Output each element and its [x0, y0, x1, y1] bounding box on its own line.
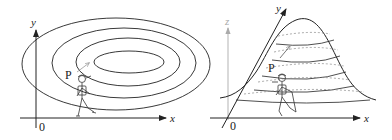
level-curve-5-front	[236, 100, 370, 103]
left-contour-panel: x y 0 P	[20, 16, 210, 134]
x-axis-label-left: x	[169, 112, 175, 124]
level-curve-3-back	[266, 63, 344, 68]
diagram-canvas: x y 0 P z x	[0, 0, 392, 140]
level-curve-2-front	[272, 56, 340, 62]
origin-label-right: 0	[230, 119, 236, 133]
y-axis-right	[222, 9, 286, 128]
gradient-arrow-right	[280, 46, 290, 58]
z-axis-label-right: z	[224, 15, 230, 27]
hiker-icon-right	[272, 74, 296, 116]
gradient-arrow-left	[77, 63, 89, 72]
level-curve-1-front	[276, 40, 334, 45]
y-axis-label-left: y	[30, 16, 36, 28]
y-axis-label-right: y	[275, 2, 281, 14]
x-axis-label-right: x	[363, 112, 369, 124]
level-curve-2-back	[274, 47, 338, 52]
level-curve-4-back	[258, 77, 350, 82]
level-curve-1-back	[278, 32, 330, 36]
point-p-label-left: P	[65, 68, 72, 82]
contour-line-outer	[22, 18, 210, 110]
point-p-label-right: P	[268, 61, 275, 75]
hiker-icon	[76, 75, 96, 116]
origin-label-left: 0	[39, 120, 45, 134]
contour-line-inner	[94, 51, 164, 73]
right-hill-panel: z x y 0 P	[210, 2, 376, 133]
